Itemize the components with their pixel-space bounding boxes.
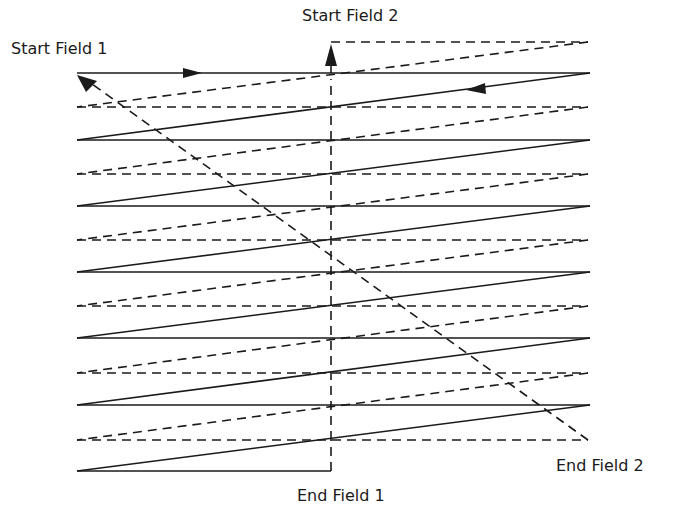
field-1-return-line bbox=[77, 206, 590, 272]
field-2-scan-lines bbox=[77, 42, 588, 440]
up-arrow-icon bbox=[325, 44, 337, 66]
field-1-return-line bbox=[77, 272, 590, 338]
direction-arrows bbox=[77, 44, 486, 94]
end-field-2-label: End Field 2 bbox=[556, 458, 644, 474]
vertical-retrace-diagonal bbox=[85, 79, 588, 440]
field-1-return-line bbox=[77, 405, 590, 471]
field-2-return-line bbox=[77, 240, 588, 306]
field-1-return-line bbox=[77, 338, 590, 405]
end-field-1-label: End Field 1 bbox=[297, 488, 385, 504]
start-field-2-label: Start Field 2 bbox=[302, 8, 398, 24]
field-2-return-line bbox=[77, 373, 588, 440]
field-2-return-line bbox=[77, 306, 588, 373]
interlace-diagram bbox=[0, 0, 687, 529]
field-1-return-line bbox=[77, 140, 590, 206]
field-1-scan-lines bbox=[77, 73, 590, 471]
field-2-return-line bbox=[77, 174, 588, 240]
up-left-arrow-icon bbox=[77, 75, 97, 92]
right-arrow-icon bbox=[183, 68, 202, 78]
start-field-1-label: Start Field 1 bbox=[11, 41, 107, 57]
